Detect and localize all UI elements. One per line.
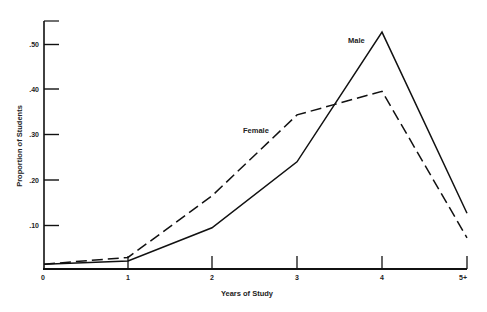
x-tick-label: 4 <box>380 274 384 281</box>
axes <box>43 21 467 270</box>
y-tick-label: .50 <box>29 41 39 48</box>
y-tick-label: .40 <box>29 86 39 93</box>
x-tick-label: 2 <box>210 274 214 281</box>
x-axis-title: Years of Study <box>221 289 274 298</box>
series-label-male: Male <box>348 36 365 45</box>
series-lines <box>44 32 467 264</box>
series-line-male <box>44 32 467 264</box>
y-tick-label: .20 <box>29 177 39 184</box>
x-tick-label: 1 <box>126 274 130 281</box>
series-line-female <box>44 91 467 264</box>
x-tick-label: 5+ <box>459 274 467 281</box>
x-tick-label: 0 <box>41 274 45 281</box>
y-axis-title: Proportion of Students <box>15 105 24 187</box>
y-tick-label: .30 <box>29 131 39 138</box>
x-tick-label: 3 <box>295 274 299 281</box>
series-label-female: Female <box>243 126 269 135</box>
labels: .10.20.30.40.50012345+Years of StudyProp… <box>15 36 467 298</box>
y-tick-label: .10 <box>29 222 39 229</box>
line-chart: .10.20.30.40.50012345+Years of StudyProp… <box>0 0 487 312</box>
